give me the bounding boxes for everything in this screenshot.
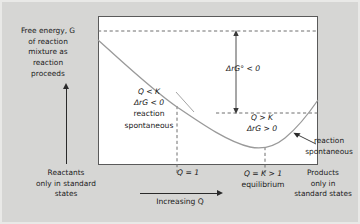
y-axis-caption-line-1: Free energy, G: [21, 26, 75, 35]
x-tick-q-equals-one: Q = 1: [162, 168, 214, 177]
x-tick-reactants-line-2: only in standard: [36, 179, 96, 188]
annotation-right-spont-line-2: spontaneous: [305, 147, 352, 156]
x-tick-equilibrium-line-2: equilibrium: [242, 180, 285, 189]
x-tick-products-line-3: standard states: [294, 189, 352, 198]
annotation-delta-g-negative: ΔrG < 0: [134, 98, 164, 107]
annotation-right-spont-line-1: reaction: [314, 136, 344, 145]
annotation-q-less-than-k: Q < K: [138, 87, 160, 96]
y-axis-caption-line-5: proceeds: [31, 69, 65, 78]
annotation-left-line-3: reaction: [133, 109, 164, 118]
figure-container: Free energy, G of reaction mixture as re…: [0, 0, 360, 224]
annotation-q-greater-than-k: Q > K: [251, 113, 273, 122]
x-tick-products-line-2: only in: [311, 179, 336, 188]
annotation-spontaneous-reverse: Q > K ΔrG > 0: [228, 112, 296, 134]
x-tick-products-line-1: Products: [307, 168, 339, 177]
x-tick-reactants: Reactants only in standard states: [20, 168, 112, 200]
annotation-spontaneous-forward: Q < K ΔrG < 0 reaction spontaneous: [112, 86, 186, 131]
annotation-delta-g-positive: ΔrG > 0: [247, 124, 277, 133]
y-axis-direction-arrow: [66, 88, 67, 164]
x-axis-caption: Increasing Q: [140, 197, 220, 206]
annotation-left-line-4: spontaneous: [125, 121, 174, 130]
x-tick-reactants-line-1: Reactants: [48, 168, 85, 177]
y-axis-caption-line-3: mixture as: [28, 47, 67, 56]
x-tick-equilibrium-line-1: Q = K > 1: [244, 169, 282, 178]
x-axis-direction-arrow: [140, 193, 218, 194]
y-axis-caption-line-4: reaction: [33, 58, 63, 67]
annotation-reverse-spontaneous-callout: reaction spontaneous: [300, 136, 358, 157]
annotation-standard-reaction-gibbs-energy: ΔrG° < 0: [212, 64, 274, 73]
x-tick-products: Products only in standard states: [286, 168, 360, 200]
y-axis-caption: Free energy, G of reaction mixture as re…: [4, 26, 92, 80]
x-tick-equilibrium: Q = K > 1 equilibrium: [232, 168, 294, 190]
x-tick-reactants-line-3: states: [55, 189, 78, 198]
y-axis-caption-line-2: of reaction: [28, 37, 68, 46]
